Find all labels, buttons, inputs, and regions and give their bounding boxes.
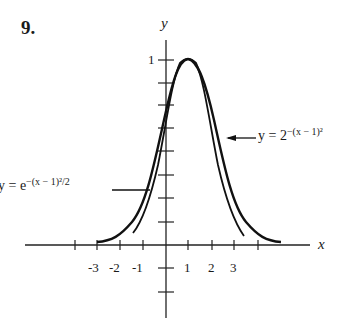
graph-figure: [0, 0, 354, 325]
curve-gaussian-2: [133, 59, 244, 236]
x-tick-label-1: 1: [184, 260, 191, 276]
equation-label-e: y = e−(x − 1)²/2: [0, 178, 70, 194]
arrow-2-curve: [226, 135, 256, 141]
x-tick-label-3: 3: [230, 260, 237, 276]
equation-e-base: y = e: [0, 178, 26, 193]
x-tick-label-neg3: -3: [88, 260, 99, 276]
x-tick-label-2: 2: [208, 260, 215, 276]
x-tick-label-neg1: -1: [132, 260, 143, 276]
x-axis-label: x: [318, 236, 325, 253]
y-tick-label-1: 1: [148, 52, 155, 68]
y-axis-label: y: [161, 15, 168, 32]
x-tick-label-neg2: -2: [109, 260, 120, 276]
equation-e-exponent: −(x − 1)²/2: [26, 176, 70, 187]
problem-number: 9.: [21, 17, 35, 39]
curve-gaussian-e: [97, 59, 281, 242]
equation-2-exponent: −(x − 1)²: [287, 126, 323, 137]
equation-label-2: y = 2−(x − 1)²: [258, 128, 323, 144]
equation-2-base: y = 2: [258, 128, 287, 143]
